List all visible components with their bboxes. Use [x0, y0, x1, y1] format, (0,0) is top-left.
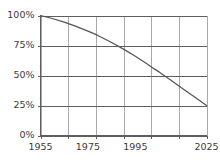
chart-svg: 0%25%50%75%100% 1955197519952025 — [0, 0, 220, 168]
x-tick-label: 2025 — [194, 141, 218, 152]
y-tick-label: 50% — [13, 69, 34, 80]
y-tick-label: 25% — [13, 99, 34, 110]
x-tick-label: 1975 — [76, 141, 100, 152]
y-tick-label: 100% — [7, 9, 34, 20]
y-tick-label: 0% — [19, 129, 34, 140]
x-tick-label: 1955 — [28, 141, 52, 152]
x-tick-label: 1995 — [123, 141, 147, 152]
line-chart: 0%25%50%75%100% 1955197519952025 — [0, 0, 220, 168]
y-tick-label: 75% — [13, 39, 34, 50]
chart-page: 0%25%50%75%100% 1955197519952025 — [0, 0, 220, 168]
